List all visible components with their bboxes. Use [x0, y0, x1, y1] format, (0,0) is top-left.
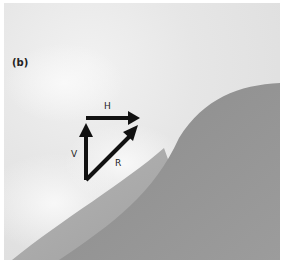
vector-v-label: V — [71, 149, 77, 159]
vector-r-label: R — [115, 158, 121, 168]
panel-label: (b) — [12, 57, 28, 68]
figure-panel: (b) H V R — [4, 3, 280, 260]
scene-svg — [4, 3, 280, 260]
vector-h-arrowhead — [128, 111, 140, 125]
vector-h-label: H — [104, 101, 111, 111]
